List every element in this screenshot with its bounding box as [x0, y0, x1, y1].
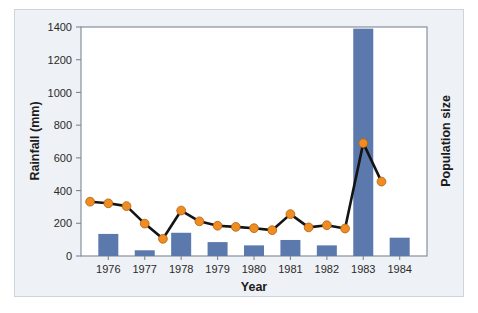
data-point-4	[159, 234, 168, 243]
data-point-14	[341, 224, 350, 233]
bar-1981	[280, 240, 300, 256]
y-axis-title: Rainfall (mm)	[28, 101, 42, 180]
x-axis-ticks: 197619771978197919801981198219831984	[96, 256, 412, 275]
bar-1979	[208, 242, 228, 256]
data-point-8	[231, 222, 240, 231]
data-point-11	[286, 210, 295, 219]
x-axis-title: Year	[241, 280, 268, 294]
data-point-3	[140, 219, 149, 228]
data-point-0	[86, 197, 95, 206]
data-point-5	[177, 206, 186, 215]
data-point-9	[250, 224, 259, 233]
rainfall-population-chart: 0200400600800100012001400 19761977197819…	[15, 10, 465, 298]
x-tick-label: 1976	[96, 263, 120, 275]
bar-1976	[98, 234, 118, 256]
plot-area-frame	[81, 27, 427, 256]
data-point-16	[377, 177, 386, 186]
y-tick-label: 1200	[48, 54, 72, 66]
x-tick-label: 1984	[387, 263, 411, 275]
bar-1984	[390, 238, 410, 256]
data-point-12	[304, 223, 313, 232]
bar-1980	[244, 245, 264, 256]
y-tick-label: 200	[54, 217, 72, 229]
figure-root: 0200400600800100012001400 19761977197819…	[0, 0, 478, 313]
x-tick-label: 1980	[242, 263, 266, 275]
y-tick-label: 600	[54, 152, 72, 164]
bar-1982	[317, 245, 337, 256]
data-point-2	[122, 202, 131, 211]
y-tick-label: 1400	[48, 21, 72, 33]
y-tick-label: 1000	[48, 87, 72, 99]
x-tick-label: 1982	[315, 263, 339, 275]
data-point-15	[359, 139, 368, 148]
y-tick-label: 0	[66, 250, 72, 262]
data-point-7	[213, 221, 222, 230]
y-axis-ticks: 0200400600800100012001400	[48, 21, 81, 262]
data-point-10	[268, 226, 277, 235]
y-tick-label: 800	[54, 119, 72, 131]
x-tick-label: 1977	[132, 263, 156, 275]
secondary-y-axis-title: Population size	[439, 95, 453, 187]
bar-1977	[135, 250, 155, 256]
y-tick-label: 400	[54, 185, 72, 197]
x-tick-label: 1983	[351, 263, 375, 275]
chart-panel: 0200400600800100012001400 19761977197819…	[14, 9, 464, 297]
data-point-6	[195, 217, 204, 226]
x-tick-label: 1979	[205, 263, 229, 275]
x-tick-label: 1978	[169, 263, 193, 275]
x-tick-label: 1981	[278, 263, 302, 275]
data-point-1	[104, 199, 113, 208]
data-point-13	[322, 221, 331, 230]
bar-1978	[171, 233, 191, 256]
